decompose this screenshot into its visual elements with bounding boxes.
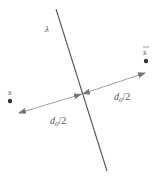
lambda-label: λ <box>44 24 49 34</box>
point-s-bar <box>144 59 148 63</box>
left-distance-arrow <box>19 94 82 113</box>
point-s <box>8 99 12 103</box>
mirror-line <box>56 9 107 171</box>
s-label: s <box>8 87 12 97</box>
right-inner-arrow <box>83 92 90 94</box>
reflection-diagram: λ s s d0/2 d0/2 <box>0 0 158 178</box>
s-bar-label: s <box>143 47 147 57</box>
right-distance-label: d0/2 <box>114 91 130 104</box>
left-inner-arrow <box>74 94 81 96</box>
left-distance-label: d0/2 <box>50 115 66 128</box>
